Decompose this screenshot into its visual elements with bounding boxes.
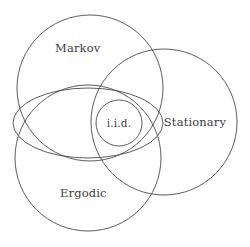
- intersection-ellipse: [13, 88, 163, 158]
- markov-label: Markov: [55, 41, 101, 55]
- stationary-label: Stationary: [164, 115, 227, 129]
- venn-diagram-canvas: Markov Stationary Ergodic i.i.d.: [0, 0, 250, 247]
- ergodic-label: Ergodic: [60, 186, 107, 200]
- iid-label: i.i.d.: [107, 117, 131, 129]
- venn-diagram: Markov Stationary Ergodic i.i.d.: [0, 0, 250, 247]
